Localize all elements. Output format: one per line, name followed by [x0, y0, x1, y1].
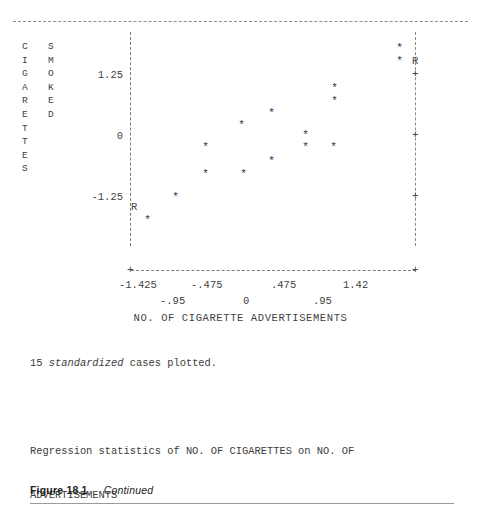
- x-tick-label-7: 1.42: [343, 280, 368, 291]
- data-point: *: [330, 142, 337, 153]
- data-point: *: [172, 192, 179, 203]
- bottom-divider-rule: [30, 503, 454, 504]
- data-point: *: [238, 120, 245, 131]
- top-divider-rule: [13, 21, 468, 22]
- data-point: *: [331, 83, 338, 94]
- right-axis-tick-3: +: [412, 191, 419, 202]
- x-tick-label-6: .95: [313, 296, 332, 307]
- regression-heading-line-1: Regression statistics of NO. OF CIGARETT…: [30, 444, 460, 459]
- figure-number: Figure 18.1: [30, 484, 88, 496]
- regression-marker-lower: R: [131, 202, 137, 213]
- y-tick-label-1: 1.25: [75, 69, 123, 81]
- data-point: *: [144, 215, 151, 226]
- data-point: *: [396, 56, 403, 67]
- x-tick-label-3: -.475: [191, 280, 223, 291]
- data-point: *: [240, 169, 247, 180]
- y-axis-title-cigarettes: C I G A R E T T E S: [22, 40, 28, 176]
- y-tick-label-3: -1.25: [75, 191, 123, 203]
- y-tick-label-2: 0: [75, 130, 123, 142]
- right-axis-tick-1: +: [412, 69, 419, 80]
- data-point: *: [302, 142, 309, 153]
- standardized-italic-word: standardized: [49, 357, 124, 369]
- y-axis-line: [130, 32, 131, 246]
- data-point: *: [396, 43, 403, 54]
- data-point: *: [202, 142, 209, 153]
- figure-caption: Figure 18.1Continued: [30, 484, 450, 496]
- scatter-plot: C I G A R E T T E S S M O K E D 1.25 0 -…: [0, 26, 481, 256]
- data-point: *: [268, 156, 275, 167]
- data-point: *: [302, 130, 309, 141]
- cases-count-text: 15: [30, 357, 49, 369]
- x-axis-left-end-glyph: +: [127, 265, 134, 276]
- x-tick-label-2: -.95: [160, 296, 185, 307]
- data-point: *: [331, 96, 338, 107]
- x-tick-label-1: -1.425: [119, 280, 157, 291]
- cases-plotted-line: 15 standardized cases plotted.: [30, 356, 460, 371]
- y-axis-title-smoked: S M O K E D: [48, 40, 54, 122]
- x-tick-label-4: 0: [243, 296, 249, 307]
- regression-marker-upper: R: [412, 56, 418, 67]
- x-axis-right-end-glyph: +: [412, 265, 419, 276]
- figure-continued-label: Continued: [104, 484, 154, 496]
- x-tick-label-5: .475: [271, 280, 296, 291]
- x-axis-title: NO. OF CIGARETTE ADVERTISEMENTS: [0, 312, 481, 324]
- right-axis-tick-2: +: [412, 130, 419, 141]
- x-axis-line: [131, 270, 416, 271]
- cases-suffix-text: cases plotted.: [124, 357, 218, 369]
- data-point: *: [202, 169, 209, 180]
- spacer: [30, 400, 460, 415]
- data-point: *: [268, 108, 275, 119]
